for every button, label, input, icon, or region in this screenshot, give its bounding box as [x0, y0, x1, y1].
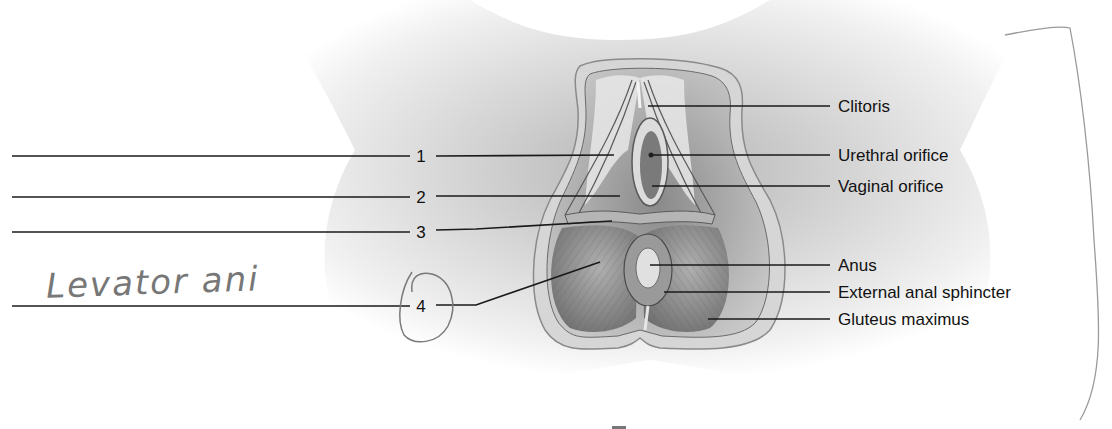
- worksheet: 1 2 3 4 Levator ani Clitoris Urethral or…: [0, 0, 1112, 429]
- handwritten-answer-4: Levator ani: [45, 258, 260, 305]
- label-clitoris: Clitoris: [838, 98, 890, 115]
- label-vaginal-orifice: Vaginal orifice: [838, 178, 944, 195]
- label-external-anal-sphincter: External anal sphincter: [838, 284, 1011, 301]
- vaginal-opening: [632, 118, 668, 206]
- label-gluteus-maximus: Gluteus maximus: [838, 311, 969, 328]
- marker-2: 2: [414, 189, 428, 206]
- label-anus: Anus: [838, 257, 877, 274]
- perineum-illustration: [0, 0, 1112, 429]
- marker-4: 4: [414, 298, 428, 315]
- marker-3: 3: [414, 224, 428, 241]
- label-urethral-orifice: Urethral orifice: [838, 147, 949, 164]
- marker-1: 1: [414, 148, 428, 165]
- pencil-bracket: [1005, 27, 1099, 420]
